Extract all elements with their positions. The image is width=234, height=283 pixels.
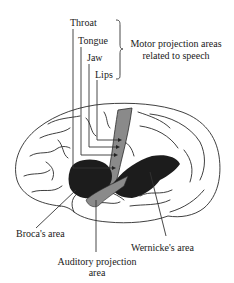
label-lips: Lips	[95, 69, 113, 80]
label-broca: Broca's area	[16, 228, 65, 239]
motor-group-label-line1: Motor projection areas	[130, 38, 221, 49]
label-tongue: Tongue	[78, 35, 108, 46]
motor-group-label-line2: related to speech	[142, 50, 209, 61]
brain-diagram: Throat Tongue Jaw Lips Motor projection …	[0, 0, 234, 283]
label-auditory-line1: Auditory projection	[57, 256, 136, 267]
label-auditory-line2: area	[89, 267, 106, 278]
wernicke-area-region	[112, 155, 180, 198]
brace-icon	[116, 20, 123, 79]
label-jaw: Jaw	[87, 52, 103, 63]
label-throat: Throat	[70, 17, 97, 28]
label-wernicke: Wernicke's area	[131, 242, 194, 253]
